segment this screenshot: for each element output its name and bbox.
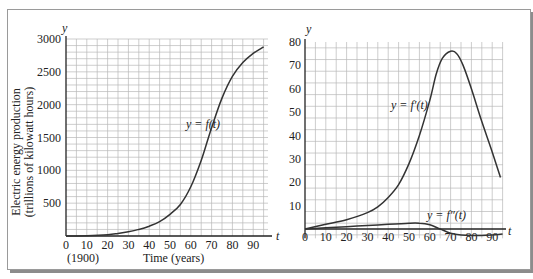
left-y-tick-label: 3000: [37, 32, 61, 46]
left-x-tick-label: 80: [226, 238, 238, 252]
right-y-tick-label: 60: [289, 82, 301, 96]
right-y-tick-label: 20: [289, 175, 301, 189]
left-chart-fx: 5001000150020002500300001020304050607080…: [37, 32, 272, 252]
right-x-tick-label: 10: [320, 230, 332, 244]
right-y-tick-label: 30: [289, 152, 301, 166]
right-y-tick-label: 40: [289, 129, 301, 143]
right-t-axis-symbol: t: [508, 224, 512, 238]
left-x-tick-label: 50: [164, 238, 176, 252]
right-y-axis-symbol: y: [305, 22, 312, 36]
left-x-tick-label: 70: [206, 238, 218, 252]
left-y-tick-label: 2000: [37, 98, 61, 112]
left-y-axis-label-line1: Electric energy production: [9, 88, 23, 216]
right-x-tick-label: 60: [424, 230, 436, 244]
right-x-tick-label: 30: [361, 230, 373, 244]
left-x-tick-label: 90: [247, 238, 259, 252]
curve-f-of-t: [66, 47, 264, 236]
right-x-tick-label: 50: [403, 230, 415, 244]
right-x-tick-label: 80: [465, 230, 477, 244]
right-x-tick-label: 0: [302, 230, 308, 244]
left-y-axis-label-line2: (trillions of kilowatt hours): [22, 87, 36, 217]
left-x-tick-label: 60: [185, 238, 197, 252]
left-y-axis-symbol: y: [61, 21, 68, 35]
left-x-tick-label: 30: [122, 238, 134, 252]
left-y-tick-label: 500: [43, 196, 61, 210]
right-y-tick-label: 80: [289, 35, 301, 49]
left-x-tick-label: 20: [102, 238, 114, 252]
left-x-tick-label: 40: [143, 238, 155, 252]
right-x-tick-label: 20: [341, 230, 353, 244]
right-fprime-label: y = f′(t): [390, 98, 428, 112]
left-year-note: (1900): [67, 251, 99, 265]
left-x-tick-label: 10: [81, 238, 93, 252]
left-y-tick-label: 2500: [37, 65, 61, 79]
left-t-axis-symbol: t: [276, 229, 280, 243]
left-y-tick-label: 1000: [37, 163, 61, 177]
right-fdoubleprime-label: y = f″(t): [426, 208, 466, 222]
left-y-tick-label: 1500: [37, 131, 61, 145]
right-y-tick-label: 70: [289, 58, 301, 72]
chart-canvas: 5001000150020002500300001020304050607080…: [0, 0, 533, 279]
left-curve-label: y = f(t): [185, 117, 220, 131]
right-y-tick-label: 10: [289, 199, 301, 213]
left-x-axis-label: Time (years): [143, 251, 204, 265]
right-chart-derivatives: 10203040506070800102030405060708090: [289, 35, 506, 244]
right-y-tick-label: 50: [289, 105, 301, 119]
right-x-tick-label: 90: [486, 230, 498, 244]
left-x-tick-label: 0: [63, 238, 69, 252]
right-x-tick-label: 40: [382, 230, 394, 244]
